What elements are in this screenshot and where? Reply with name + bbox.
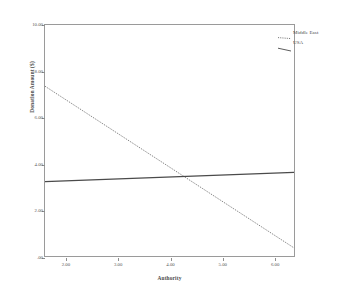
series-group <box>45 86 294 248</box>
x-tick-mark <box>171 258 172 261</box>
series-line <box>45 172 294 181</box>
series-line <box>45 86 294 248</box>
plot-canvas <box>45 25 294 256</box>
chart-legend: Middle EastUSA <box>278 28 340 48</box>
legend-line-swatch <box>278 39 291 46</box>
x-tick-label: 6.00 <box>260 262 290 267</box>
x-tick-label: 4.00 <box>156 262 186 267</box>
x-tick-label: 2.00 <box>51 262 81 267</box>
y-tick-label: 6.00 <box>19 115 43 120</box>
x-tick-mark <box>118 258 119 261</box>
x-tick-mark <box>275 258 276 261</box>
y-tick-label: 8.00 <box>19 69 43 74</box>
legend-label: Middle East <box>293 30 318 35</box>
x-axis-title: Authority <box>44 275 295 281</box>
legend-item: USA <box>278 38 340 47</box>
x-tick-label: 5.00 <box>208 262 238 267</box>
y-tick-label: 2.00 <box>19 208 43 213</box>
legend-item: Middle East <box>278 28 340 37</box>
plot-area: 10.008.006.004.002.00.00 2.003.004.005.0… <box>44 24 295 257</box>
y-tick-label: .00 <box>19 255 43 260</box>
y-axis-title: Donation Amount ($) <box>29 27 35 147</box>
chart-figure: Donation Amount ($) 10.008.006.004.002.0… <box>0 0 343 298</box>
legend-line-swatch <box>278 29 291 36</box>
y-tick-label: 10.00 <box>19 22 43 27</box>
x-tick-mark <box>66 258 67 261</box>
y-tick-label: 4.00 <box>19 162 43 167</box>
x-tick-mark <box>223 258 224 261</box>
legend-label: USA <box>293 40 303 45</box>
x-tick-label: 3.00 <box>103 262 133 267</box>
